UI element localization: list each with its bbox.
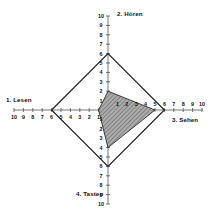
tick-label: 3 xyxy=(135,101,138,107)
tick-label: 8 xyxy=(31,114,34,120)
tick-label: 2 xyxy=(88,114,91,120)
tick-label: 7 xyxy=(172,101,175,107)
tick-label: 4 xyxy=(100,69,103,75)
radar-chart: 1. Lesen 2. Hören 3. Sehen 4. Tasten 123… xyxy=(0,0,216,208)
tick-label: 8 xyxy=(182,101,185,107)
tick-label: 2 xyxy=(100,88,103,94)
tick-label: 6 xyxy=(100,51,103,57)
tick-label: 7 xyxy=(100,41,103,47)
tick-label: 6 xyxy=(50,114,53,120)
tick-label: 4 xyxy=(100,145,103,151)
tick-label: 5 xyxy=(100,60,103,66)
tick-label: 1 xyxy=(100,98,103,104)
axis-label-lesen: 1. Lesen xyxy=(6,96,32,103)
tick-label: 3 xyxy=(78,114,81,120)
tick-label: 7 xyxy=(41,114,44,120)
tick-label: 8 xyxy=(100,182,103,188)
tick-label: 10 xyxy=(11,114,17,120)
tick-label: 5 xyxy=(60,114,63,120)
tick-label: 3 xyxy=(100,135,103,141)
tick-label: 10 xyxy=(98,201,104,207)
axis-label-sehen: 3. Sehen xyxy=(172,116,198,123)
series-inner-polygon xyxy=(99,91,155,147)
tick-label: 3 xyxy=(100,79,103,85)
tick-label: 9 xyxy=(191,101,194,107)
tick-label: 1 xyxy=(116,101,119,107)
tick-label: 1 xyxy=(100,116,103,122)
tick-label: 9 xyxy=(100,22,103,28)
axis-label-hoeren: 2. Hören xyxy=(117,10,143,17)
tick-label: 8 xyxy=(100,32,103,38)
tick-label: 4 xyxy=(69,114,72,120)
tick-label: 5 xyxy=(154,101,157,107)
tick-label: 9 xyxy=(100,192,103,198)
tick-label: 2 xyxy=(125,101,128,107)
tick-label: 10 xyxy=(98,13,104,19)
tick-label: 7 xyxy=(100,173,103,179)
tick-label: 9 xyxy=(22,114,25,120)
tick-label: 2 xyxy=(100,126,103,132)
tick-label: 6 xyxy=(163,101,166,107)
tick-label: 5 xyxy=(100,154,103,160)
tick-label: 4 xyxy=(144,101,147,107)
tick-label: 6 xyxy=(100,163,103,169)
tick-label: 10 xyxy=(199,101,205,107)
